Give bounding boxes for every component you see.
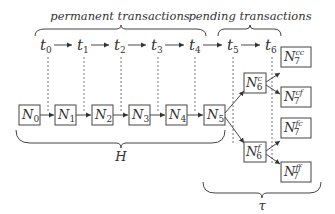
tau-label: τ: [258, 198, 266, 213]
time-step-t5: t5: [227, 36, 239, 55]
branch-node-n7fc: Nfc7: [281, 118, 311, 138]
chain-node-n0: N0: [19, 105, 40, 125]
time-step-t6: t6: [265, 36, 277, 55]
chain-node-n4: N4: [166, 105, 187, 125]
branch-node-n6f: Nf6: [244, 142, 266, 162]
pending-brace: [218, 25, 281, 36]
svg-text:Nf6: Nf6: [245, 143, 262, 161]
time-step-t2: t2: [114, 36, 126, 55]
branch-node-n7cc: Ncc7: [281, 47, 311, 67]
history-label: H: [114, 149, 127, 164]
diagram-svg: permanent transactions pending transacti…: [0, 0, 335, 214]
tau-brace: [203, 182, 321, 198]
chain-node-n5: N5: [204, 105, 225, 125]
chain-node-n1: N1: [55, 105, 76, 125]
time-step-t0: t0: [40, 36, 52, 55]
branch-node-n7cf: Ncf7: [281, 87, 311, 107]
time-step-t3: t3: [151, 36, 163, 55]
pending-transactions-caption: pending transactions: [188, 9, 311, 23]
time-step-row: t0 t1 t2 t3 t4 t5 t6: [40, 36, 277, 55]
svg-text:Nc6: Nc6: [245, 74, 263, 92]
blockchain-transaction-diagram: permanent transactions pending transacti…: [0, 0, 335, 214]
time-step-t1: t1: [77, 36, 89, 55]
chain-node-n2: N2: [92, 105, 113, 125]
chain-node-n3: N3: [129, 105, 150, 125]
time-step-t4: t4: [189, 36, 201, 55]
branch-node-n7ff: Nff7: [281, 162, 311, 182]
branch-node-n6c: Nc6: [244, 73, 266, 93]
permanent-transactions-caption: permanent transactions: [50, 9, 190, 23]
time-dashed-lines: [48, 57, 272, 165]
history-brace: [16, 130, 225, 148]
permanent-brace: [35, 25, 206, 36]
